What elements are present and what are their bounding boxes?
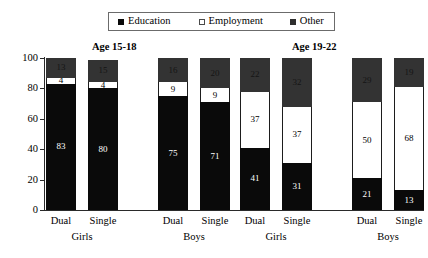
bars-layer: 83 4 13 80 4 15 75 9 16 71 9 20 41 37 22… — [0, 58, 428, 210]
bar-segment-employment: 9 — [200, 88, 230, 102]
bar-segment-employment: 4 — [46, 78, 76, 84]
bar-segment-other: 22 — [240, 58, 270, 92]
bar-segment-education: 71 — [200, 102, 230, 210]
bar-segment-other: 29 — [352, 58, 382, 102]
legend-label-other: Other — [300, 16, 324, 27]
legend-item-other: Other — [290, 16, 324, 27]
bar-g1b0[interactable]: 75 9 16 — [158, 58, 188, 210]
x-label-bar-5: Single — [273, 216, 321, 227]
legend-swatch-education-icon — [118, 19, 124, 25]
bar-segment-education: 13 — [394, 190, 424, 210]
x-group-label-boys-15-18: Boys — [154, 232, 234, 243]
panel-title-age-19-22: Age 19-22 — [292, 41, 337, 52]
x-label-bar-1: Single — [79, 216, 127, 227]
legend-item-employment: Employment — [199, 16, 263, 27]
x-label-bar-0: Dual — [37, 216, 85, 227]
bar-segment-other: 16 — [158, 58, 188, 82]
bar-g2b1[interactable]: 31 37 32 — [282, 58, 312, 210]
x-label-bar-2: Dual — [149, 216, 197, 227]
bar-segment-other: 19 — [394, 58, 424, 87]
x-label-bar-7: Single — [385, 216, 428, 227]
bar-segment-employment: 68 — [394, 87, 424, 190]
bar-segment-employment: 4 — [88, 82, 118, 88]
x-group-label-girls-15-18: Girls — [42, 232, 122, 243]
bar-g2b0[interactable]: 41 37 22 — [240, 58, 270, 210]
bar-g0b1[interactable]: 80 4 15 — [88, 58, 118, 210]
panel-title-age-15-18: Age 15-18 — [92, 41, 137, 52]
bar-segment-education: 80 — [88, 88, 118, 210]
bar-segment-employment: 37 — [240, 92, 270, 148]
x-label-bar-4: Dual — [231, 216, 279, 227]
legend-label-employment: Employment — [209, 16, 263, 27]
bar-segment-employment: 9 — [158, 82, 188, 96]
bar-segment-education: 31 — [282, 163, 312, 210]
x-axis-line — [44, 210, 424, 211]
bar-segment-other: 15 — [88, 60, 118, 83]
chart-legend: Education Employment Other — [108, 12, 335, 31]
bar-segment-other: 32 — [282, 58, 312, 107]
bar-g0b0[interactable]: 83 4 13 — [46, 58, 76, 210]
legend-item-education: Education — [118, 16, 171, 27]
bar-segment-employment: 50 — [352, 102, 382, 178]
bar-segment-employment: 37 — [282, 107, 312, 163]
bar-segment-education: 75 — [158, 96, 188, 210]
y-tick-0: 0 — [0, 210, 38, 211]
y-tick-mark-0 — [40, 210, 45, 211]
x-group-label-girls-19-22: Girls — [236, 232, 316, 243]
bar-g3b1[interactable]: 13 68 19 — [394, 58, 424, 210]
bar-g1b1[interactable]: 71 9 20 — [200, 58, 230, 210]
bar-segment-other: 13 — [46, 58, 76, 78]
legend-swatch-employment-icon — [199, 19, 205, 25]
chart-plot-area: Age 15-18 Age 19-22 0 20 40 60 80 100 83… — [0, 36, 428, 258]
legend-label-education: Education — [128, 16, 171, 27]
bar-g3b0[interactable]: 21 50 29 — [352, 58, 382, 210]
legend-swatch-other-icon — [290, 19, 296, 25]
bar-segment-education: 83 — [46, 84, 76, 210]
bar-segment-education: 41 — [240, 148, 270, 210]
x-label-bar-6: Dual — [343, 216, 391, 227]
bar-segment-education: 21 — [352, 178, 382, 210]
bar-segment-other: 20 — [200, 58, 230, 88]
x-group-label-boys-19-22: Boys — [348, 232, 428, 243]
